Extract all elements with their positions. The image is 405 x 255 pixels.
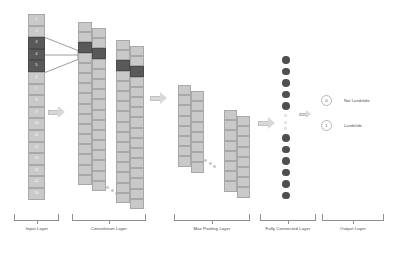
brace-convolution-layer — [72, 214, 146, 221]
conv-cell — [78, 63, 92, 73]
conv-cell — [130, 189, 144, 199]
convolution-block-2-back — [116, 40, 130, 203]
input-cell: 14 — [28, 165, 45, 177]
pool-cell — [237, 136, 250, 146]
conv-cell — [78, 32, 92, 42]
input-cell: 15 — [28, 176, 45, 188]
conv-cell — [130, 158, 144, 168]
fc-ellipsis-dot — [284, 127, 287, 130]
conv-cell-highlighted — [92, 48, 106, 58]
conv-cell — [92, 28, 106, 38]
conv-cell — [92, 150, 106, 160]
pool-cell — [237, 157, 250, 167]
caption-maxpooling-layer: Max Pooling Layer — [174, 226, 250, 231]
conv-cell — [116, 122, 130, 132]
conv-cell — [78, 73, 92, 83]
output-node-0: 0 — [321, 95, 332, 106]
pool-cell — [178, 156, 191, 166]
fc-node — [282, 91, 290, 99]
conv-cell — [78, 124, 92, 134]
conv-cell — [116, 101, 130, 111]
convolution-block-1-back — [78, 22, 92, 185]
conv-cell — [130, 128, 144, 138]
pool-cell — [191, 152, 204, 162]
conv-cell-highlighted — [116, 60, 130, 70]
conv-cell — [116, 193, 130, 203]
conv-cell — [92, 181, 106, 191]
input-cell: 1 — [28, 14, 45, 26]
arrow-maxpooling-to-fullyconnected — [258, 117, 275, 130]
conv-cell — [116, 162, 130, 172]
conv-cell — [78, 104, 92, 114]
arrow-input-to-convolution — [48, 106, 65, 119]
pool-cell — [224, 171, 237, 181]
arrow-convolution-to-maxpooling — [150, 92, 167, 105]
conv-cell — [92, 99, 106, 109]
fc-ellipsis-dot — [284, 121, 287, 124]
caption-output-layer: Output Layer — [322, 226, 384, 231]
pool-cell — [178, 95, 191, 105]
conv-cell — [78, 134, 92, 144]
convolution-block-1-front — [92, 28, 106, 191]
conv-cell — [78, 154, 92, 164]
conv-cell-highlighted — [78, 42, 92, 52]
pool-cell — [237, 177, 250, 187]
input-cell: 8 — [28, 95, 45, 107]
brace-maxpooling-layer — [174, 214, 250, 221]
conv-cell-highlighted — [130, 66, 144, 76]
pool-cell — [237, 147, 250, 157]
input-layer-column: 12345678910111213141516 — [28, 14, 45, 200]
pool-cell — [178, 136, 191, 146]
input-cell: 11 — [28, 130, 45, 142]
conv-cell — [78, 83, 92, 93]
pool-cell — [191, 122, 204, 132]
conv-cell — [130, 46, 144, 56]
conv-cell — [116, 81, 130, 91]
maxpooling-block-2-back — [224, 110, 237, 192]
conv-cell — [92, 69, 106, 79]
conv-cell — [92, 89, 106, 99]
fc-node — [282, 169, 290, 177]
maxpooling-block-2-front — [237, 116, 250, 198]
conv-cell — [78, 93, 92, 103]
fc-node — [282, 157, 290, 165]
pool-cell — [191, 91, 204, 101]
pool-cell — [224, 130, 237, 140]
conv-cell — [92, 110, 106, 120]
convolution-block-2-front — [130, 46, 144, 209]
conv-cell — [116, 111, 130, 121]
conv-cell — [116, 50, 130, 60]
conv-cell — [130, 148, 144, 158]
output-node-0-value: 0 — [325, 98, 327, 103]
conv-cell — [92, 171, 106, 181]
pool-cell — [237, 167, 250, 177]
maxpooling-block-1-back — [178, 85, 191, 167]
brace-fullyconnected-layer — [260, 214, 316, 221]
conv-cell — [116, 142, 130, 152]
conv-cell — [92, 160, 106, 170]
fc-node — [282, 102, 290, 110]
output-node-0-label: Not Landslide — [344, 98, 370, 103]
caption-convolution-layer: Convolution Layer — [72, 226, 146, 231]
arrow-fullyconnected-to-output — [299, 110, 311, 119]
pool-cell — [191, 142, 204, 152]
input-cell: 7 — [28, 84, 45, 96]
caption-input-layer: Input Layer — [0, 226, 74, 231]
conv-cell — [92, 59, 106, 69]
conv-cell — [130, 56, 144, 66]
input-cell: 2 — [28, 26, 45, 38]
fc-node — [282, 56, 290, 64]
input-cell: 9 — [28, 107, 45, 119]
input-cell-highlighted: 4 — [28, 49, 45, 61]
input-cell: 13 — [28, 153, 45, 165]
fc-node — [282, 146, 290, 154]
pool-cell — [191, 162, 204, 172]
pool-cell — [224, 120, 237, 130]
conv-cell — [92, 130, 106, 140]
conv-cell — [130, 77, 144, 87]
pool-cell — [191, 132, 204, 142]
pool-cell — [224, 141, 237, 151]
conv-cell — [130, 97, 144, 107]
maxpooling-block-1-front — [191, 91, 204, 173]
input-cell: 16 — [28, 188, 45, 200]
